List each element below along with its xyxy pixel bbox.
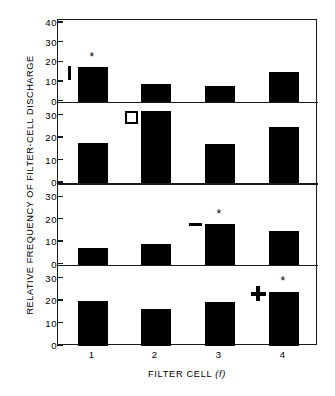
y-tick-label: 0	[35, 95, 57, 106]
y-tick-mark	[57, 181, 63, 182]
bar	[205, 144, 235, 183]
y-tick-mark	[57, 100, 63, 101]
panel-3-plot-area: *	[58, 183, 318, 265]
y-tick-label: 30	[35, 109, 57, 120]
y-tick-mark	[57, 114, 63, 115]
bar	[269, 72, 299, 101]
x-tick-label: 2	[152, 349, 158, 360]
y-tick-label: 40	[35, 17, 57, 28]
x-axis-title: FILTER CELL (f)	[57, 369, 317, 379]
dash-marker-icon	[189, 223, 202, 226]
bar	[205, 86, 235, 102]
y-tick-label: 30	[35, 191, 57, 202]
significance-asterisk: *	[217, 211, 222, 217]
bar	[78, 67, 108, 101]
chart-root: RELATIVE FREQUENCY OF FILTER-CELL DISCHA…	[0, 0, 335, 396]
y-tick-label: 10	[35, 75, 57, 86]
x-axis-title-variable: (f)	[215, 369, 226, 379]
panel-2: *	[58, 102, 318, 184]
x-tick-label: 4	[280, 349, 286, 360]
plot-frame: ****	[57, 19, 317, 345]
x-tick-label: 3	[216, 349, 222, 360]
y-tick-mark	[57, 41, 63, 42]
panel-1: *	[58, 20, 318, 102]
y-tick-label: 30	[35, 36, 57, 47]
plus-marker-icon	[251, 286, 266, 301]
y-tick-label: 10	[35, 154, 57, 165]
y-tick-label: 30	[35, 272, 57, 283]
panel-4: *	[58, 265, 318, 347]
y-tick-mark	[57, 61, 63, 62]
y-tick-mark	[57, 277, 63, 278]
bar	[205, 302, 235, 346]
bar	[78, 143, 108, 183]
y-tick-mark	[57, 196, 63, 197]
vertical-bar-marker-icon	[68, 66, 71, 80]
y-tick-label: 10	[35, 236, 57, 247]
y-axis-title: RELATIVE FREQUENCY OF FILTER-CELL DISCHA…	[25, 25, 35, 345]
y-tick-mark	[57, 21, 63, 22]
y-tick-mark	[57, 299, 63, 300]
y-tick-mark	[57, 322, 63, 323]
y-tick-mark	[57, 263, 63, 264]
y-tick-mark	[57, 240, 63, 241]
bar	[78, 248, 108, 265]
bar	[141, 309, 171, 346]
y-tick-mark	[57, 80, 63, 81]
y-tick-label: 10	[35, 317, 57, 328]
y-tick-mark	[57, 218, 63, 219]
bar	[78, 301, 108, 346]
significance-asterisk: *	[281, 278, 286, 284]
y-tick-mark	[57, 136, 63, 137]
bar	[205, 224, 235, 264]
x-tick-label: 1	[89, 349, 95, 360]
bar	[269, 292, 299, 346]
open-square-marker-icon	[125, 111, 138, 124]
y-tick-label: 0	[35, 258, 57, 269]
y-tick-label: 0	[35, 177, 57, 188]
x-axis-title-text: FILTER CELL	[148, 369, 215, 379]
bar	[269, 127, 299, 183]
y-axis-tick-labels: 010203040010203001020300102030	[35, 19, 57, 345]
bar	[269, 231, 299, 265]
significance-asterisk: *	[153, 99, 158, 105]
y-tick-label: 0	[35, 340, 57, 351]
y-tick-mark	[57, 344, 63, 345]
panel-2-plot-area: *	[58, 102, 318, 184]
x-axis-tick-labels: 1234	[57, 349, 317, 363]
y-tick-label: 20	[35, 56, 57, 67]
y-tick-label: 20	[35, 132, 57, 143]
panel-4-plot-area: *	[58, 265, 318, 347]
significance-asterisk: *	[90, 54, 95, 60]
y-tick-label: 20	[35, 295, 57, 306]
panel-1-plot-area: *	[58, 20, 318, 102]
panel-3: *	[58, 183, 318, 265]
bar	[141, 244, 171, 264]
y-tick-mark	[57, 159, 63, 160]
bar	[141, 111, 171, 183]
y-tick-label: 20	[35, 213, 57, 224]
